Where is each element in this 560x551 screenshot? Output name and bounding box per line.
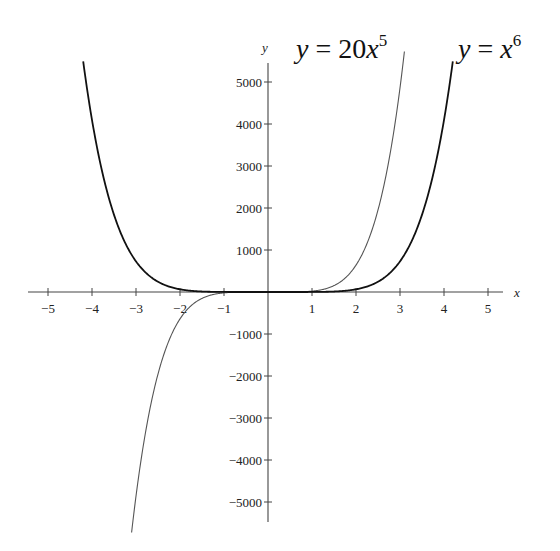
x-tick-label: 4 bbox=[441, 301, 448, 316]
y-tick-label: −2000 bbox=[229, 369, 262, 384]
curve-label-x6: y = x6 bbox=[455, 31, 521, 64]
y-tick-label: 3000 bbox=[236, 159, 262, 174]
y-tick-label: −1000 bbox=[229, 327, 262, 342]
x-tick-label: 2 bbox=[353, 301, 360, 316]
y-tick-label: −5000 bbox=[229, 495, 262, 510]
function-plot: −5−4−3−2−112345−5000−4000−3000−2000−1000… bbox=[0, 0, 560, 551]
x-axis-label: x bbox=[513, 285, 520, 300]
x-tick-label: 1 bbox=[309, 301, 316, 316]
y-axis-label: y bbox=[260, 40, 268, 55]
y-tick-label: 1000 bbox=[236, 243, 262, 258]
y-tick-label: 5000 bbox=[236, 75, 262, 90]
x-tick-label: 3 bbox=[397, 301, 404, 316]
y-tick-label: 4000 bbox=[236, 117, 262, 132]
curve-label-20x5: y = 20x5 bbox=[293, 31, 387, 64]
x-tick-label: −2 bbox=[173, 301, 187, 316]
x-tick-label: −4 bbox=[85, 301, 99, 316]
x-tick-label: −1 bbox=[217, 301, 231, 316]
x-tick-label: −5 bbox=[41, 301, 55, 316]
y-tick-label: −3000 bbox=[229, 411, 262, 426]
x-tick-label: 5 bbox=[485, 301, 492, 316]
x-tick-label: −3 bbox=[129, 301, 143, 316]
y-tick-label: 2000 bbox=[236, 201, 262, 216]
y-tick-label: −4000 bbox=[229, 453, 262, 468]
